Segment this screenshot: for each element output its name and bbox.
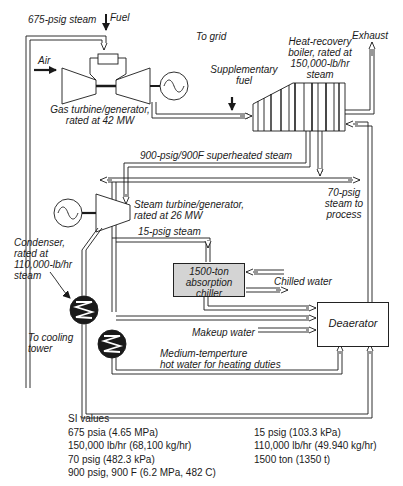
condenser-label-line2: rated at xyxy=(14,248,72,259)
hrsg-box xyxy=(253,83,345,131)
deaerator-label: Deaerator xyxy=(317,318,389,329)
feedwater-line xyxy=(346,122,372,332)
gas-turbine-label-line2: rated at 42 MW xyxy=(40,115,160,126)
process-steam-label: 70-psig steam to process xyxy=(320,187,368,220)
hot-water-label: Medium-temperture hot water for heating … xyxy=(160,348,281,370)
condenser-line xyxy=(82,228,102,298)
si-value: 15 psig (103.3 kPa) xyxy=(254,426,377,440)
steam-turbine-label-line2: rated at 26 MW xyxy=(134,210,244,221)
chiller-label-line3: chiller xyxy=(173,288,245,299)
chiller-label-line2: absorption xyxy=(173,277,245,288)
condenser-label-line4: steam xyxy=(14,270,72,281)
process-steam-line3: process xyxy=(320,209,368,220)
process-steam-line1: 70-psig xyxy=(320,187,368,198)
hot-water-line2: hot water for heating duties xyxy=(160,359,281,370)
gas-turbine xyxy=(62,54,188,104)
chilled-water-label: Chilled water xyxy=(274,276,332,287)
superheated-steam-line xyxy=(124,131,310,204)
steam-turbine xyxy=(54,194,130,232)
si-value: 900 psig, 900 F (6.2 MPa, 482 C) xyxy=(68,466,216,480)
gas-turbine-label: Gas turbine/generator, rated at 42 MW xyxy=(40,104,160,126)
air-label: Air xyxy=(38,55,50,66)
si-value: 1500 ton (1350 t) xyxy=(254,453,377,467)
fuel-label: Fuel xyxy=(110,12,129,23)
superheated-steam-label: 900-psig/900F superheated steam xyxy=(140,150,292,161)
supplementary-fuel-line1: Supplementary xyxy=(206,64,282,75)
condenser-label: Condenser, rated at 110,000-lb/hr steam xyxy=(14,237,72,281)
to-grid-label: To grid xyxy=(196,31,226,42)
hrsg-label-line1: Heat-recovery xyxy=(284,36,356,47)
cooling-tower-line2: tower xyxy=(28,343,73,354)
hrsg-label-line2: boiler, rated at xyxy=(284,47,356,58)
chiller-label: 1500-ton absorption chiller xyxy=(173,266,245,299)
si-value: 70 psig (482.3 kPa) xyxy=(68,453,216,467)
chiller-label-line1: 1500-ton xyxy=(173,266,245,277)
steam-15-label: 15-psig steam xyxy=(138,226,201,237)
steam-turbine-label: Steam turbine/generator, rated at 26 MW xyxy=(134,199,244,221)
return-to-deaerator-line xyxy=(116,316,316,320)
makeup-water-line xyxy=(258,328,316,332)
si-value: 150,000 lb/hr (68,100 kg/hr) xyxy=(68,439,216,453)
hrsg-label-line4: steam xyxy=(284,69,356,80)
cooling-tower-label: To cooling tower xyxy=(28,332,73,354)
si-values-right: 15 psig (103.3 kPa) 110,000 lb/hr (49.94… xyxy=(254,426,377,467)
condenser-label-line1: Condenser, xyxy=(14,237,72,248)
condenser-label-line3: 110,000-lb/hr xyxy=(14,259,72,270)
hot-water-line1: Medium-temperture xyxy=(160,348,281,359)
gt-exhaust-line xyxy=(152,102,252,118)
hrsg-label: Heat-recovery boiler, rated at 150,000-l… xyxy=(284,36,356,80)
exhaust-label: Exhaust xyxy=(352,30,388,41)
makeup-water-label: Makeup water xyxy=(192,327,255,338)
supplementary-fuel-line2: fuel xyxy=(206,75,282,86)
cooling-tower-line1: To cooling xyxy=(28,332,73,343)
si-value: 110,000 lb/hr (49.940 kg/hr) xyxy=(254,439,377,453)
steam-675-label: 675-psig steam xyxy=(28,14,96,25)
si-value: 675 psia (4.65 MPa) xyxy=(68,426,216,440)
si-values-title: SI values xyxy=(68,412,216,426)
hrsg-label-line3: 150,000-lb/hr xyxy=(284,58,356,69)
process-steam-line2: steam to xyxy=(320,198,368,209)
gas-turbine-label-line1: Gas turbine/generator, xyxy=(40,104,160,115)
si-values-left: SI values 675 psia (4.65 MPa) 150,000 lb… xyxy=(68,412,216,480)
steam-turbine-label-line1: Steam turbine/generator, xyxy=(134,199,244,210)
supplementary-fuel-label: Supplementary fuel xyxy=(206,64,282,86)
steam-15-line xyxy=(112,238,210,262)
